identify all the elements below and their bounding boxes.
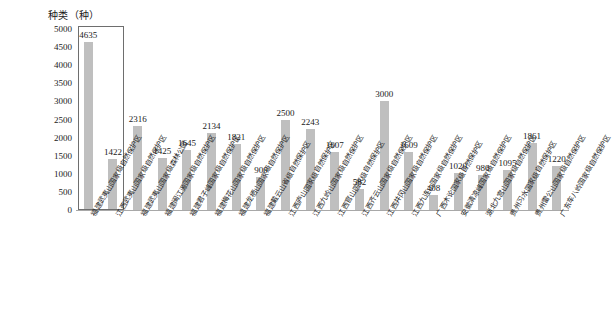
bar-value-label: 2134 bbox=[203, 121, 221, 131]
bar-value-label: 1422 bbox=[104, 147, 122, 157]
y-tick-label: 500 bbox=[42, 187, 72, 197]
bar-value-label: 4635 bbox=[79, 30, 97, 40]
bar bbox=[429, 195, 438, 210]
y-axis-tick-labels: 5000450040003500300025002000150010005000 bbox=[40, 0, 72, 335]
y-tick-label: 1500 bbox=[42, 151, 72, 161]
bar-value-label: 2500 bbox=[277, 108, 295, 118]
y-tick-label: 0 bbox=[42, 205, 72, 215]
bar-slot bbox=[84, 29, 93, 210]
y-tick-label: 3000 bbox=[42, 96, 72, 106]
bar-value-label: 2316 bbox=[129, 114, 147, 124]
bar-value-label: 3000 bbox=[375, 89, 393, 99]
x-axis-category-labels: 福建武夷山国家级自然保护区江西武夷山国家级自然保护区福建武夷山国家级森林公园福建… bbox=[76, 212, 569, 335]
bar-value-label: 2243 bbox=[301, 117, 319, 127]
y-tick-label: 2000 bbox=[42, 133, 72, 143]
y-tick-label: 1000 bbox=[42, 169, 72, 179]
y-tick-label: 4000 bbox=[42, 60, 72, 70]
y-tick-label: 3500 bbox=[42, 78, 72, 88]
y-tick-label: 4500 bbox=[42, 42, 72, 52]
bar bbox=[84, 42, 93, 210]
y-tick-label: 2500 bbox=[42, 115, 72, 125]
y-tick-label: 5000 bbox=[42, 24, 72, 34]
plot-area: 4635142223161425164521341821900250022431… bbox=[76, 29, 569, 210]
